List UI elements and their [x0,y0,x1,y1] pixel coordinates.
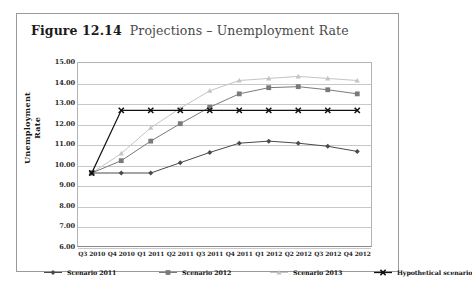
triangle-marker [148,125,153,130]
y-axis-tick-label: 13.00 [37,99,75,107]
legend-item-scenario-2013[interactable]: Scenario 2013 [269,268,342,277]
square-marker [178,121,183,126]
y-axis-tick-label: 10.00 [37,161,75,169]
diamond-marker [296,141,301,146]
diamond-marker [148,171,153,176]
square-marker [237,91,242,96]
diamond-marker [355,149,360,154]
y-axis-tick-label: 8.00 [37,202,75,210]
x-axis-tick-label: Q3 2010 [78,250,105,257]
chart-plot-area: 15.0014.0013.0012.0011.0010.009.008.007.… [17,44,400,272]
legend-label: Scenario 2012 [182,269,231,276]
x-axis-tick-label: Q4 2012 [344,250,371,257]
x-axis-tick-label: Q4 2011 [226,250,253,257]
square-marker [166,270,171,275]
square-marker [119,158,124,163]
x-axis-tick-label: Q2 2012 [285,250,312,257]
diamond-marker [51,270,56,275]
diamond-marker [119,171,124,176]
x-axis-ticks: Q3 2010Q4 2010Q1 2011Q2 2011Q3 2011Q4 20… [77,250,372,264]
diamond-icon [43,268,63,277]
x-axis-tick-label: Q2 2011 [167,250,194,257]
gridline [78,248,371,249]
y-axis-tick-label: 14.00 [37,79,75,87]
diamond-marker [178,160,183,165]
square-marker [266,85,271,90]
series-line-scenario-2011 [92,141,358,173]
chart-series-layer [77,62,372,247]
square-icon [158,268,178,277]
cross-icon [373,268,393,277]
y-axis-tick-label: 9.00 [37,181,75,189]
y-axis-tick-label: 12.00 [37,120,75,128]
diamond-marker [237,141,242,146]
legend-item-hypothetical-scenario[interactable]: Hypothetical scenario [373,268,472,277]
legend-item-scenario-2011[interactable]: Scenario 2011 [43,268,116,277]
triangle-icon [269,268,289,277]
y-axis-title: Unemployment Rate [22,80,42,176]
square-marker [355,91,360,96]
y-axis-tick-label: 6.00 [37,243,75,251]
figure-number: Figure 12.14 [31,23,122,38]
series-line-scenario-2013 [92,76,358,173]
square-marker [325,87,330,92]
figure-title: Figure 12.14 Projections – Unemployment … [31,23,349,38]
y-axis-tick-label: 15.00 [37,58,75,66]
series-line-hypothetical-scenario [92,110,358,173]
legend-label: Scenario 2013 [293,269,342,276]
x-axis-tick-label: Q3 2011 [196,250,223,257]
x-axis-tick-label: Q4 2010 [108,250,135,257]
y-axis-tick-label: 11.00 [37,140,75,148]
x-axis-tick-label: Q3 2012 [314,250,341,257]
diamond-marker [266,139,271,144]
figure-caption: Projections – Unemployment Rate [130,23,349,38]
legend-label: Hypothetical scenario [397,269,472,276]
square-marker [148,139,153,144]
diamond-marker [325,144,330,149]
square-marker [296,84,301,89]
x-axis-tick-label: Q1 2011 [137,250,164,257]
legend-item-scenario-2012[interactable]: Scenario 2012 [158,268,231,277]
diamond-marker [207,150,212,155]
figure-card: Figure 12.14 Projections – Unemployment … [16,13,399,272]
x-axis-tick-label: Q1 2012 [255,250,282,257]
series-line-scenario-2012 [92,87,358,173]
chart-legend: Scenario 2011Scenario 2012Scenario 2013H… [43,268,383,284]
legend-label: Scenario 2011 [67,269,116,276]
y-axis-tick-label: 7.00 [37,222,75,230]
